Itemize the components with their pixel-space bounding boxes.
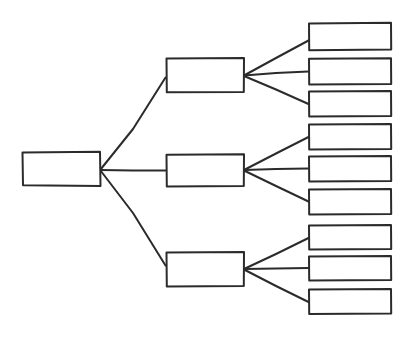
- node-leaf-9[interactable]: [309, 289, 391, 314]
- connector-branch-3-to-leaf-9: [244, 270, 309, 303]
- node-leaf-7[interactable]: [309, 225, 391, 250]
- node-leaf-1[interactable]: [309, 23, 391, 50]
- connector-root-to-branch-2: [101, 170, 166, 171]
- connector-branch-1-to-leaf-2: [244, 72, 309, 76]
- tree-diagram-svg: [0, 0, 406, 340]
- node-root[interactable]: [23, 152, 101, 186]
- node-branch-2[interactable]: [167, 154, 245, 186]
- node-branch-3-outline: [167, 252, 245, 286]
- node-leaf-1-outline: [309, 23, 391, 50]
- node-leaf-5-outline: [309, 156, 391, 182]
- connector-group-root: [101, 78, 166, 266]
- node-leaf-6[interactable]: [309, 189, 391, 215]
- node-root-outline: [23, 152, 101, 186]
- node-leaf-3-outline: [309, 91, 391, 116]
- node-leaf-8[interactable]: [309, 256, 391, 281]
- connector-group-branch-3: [244, 238, 309, 302]
- connector-group-branch-1: [244, 41, 309, 105]
- connector-branch-2-to-leaf-5: [244, 169, 309, 171]
- connector-branch-3-to-leaf-7: [244, 238, 309, 269]
- node-branch-1-outline: [167, 58, 245, 92]
- connector-branch-1-to-leaf-3: [244, 76, 309, 104]
- connector-root-to-branch-3: [101, 171, 166, 266]
- connector-branch-3-to-leaf-8: [244, 268, 309, 269]
- node-leaf-4-outline: [309, 124, 391, 150]
- node-leaf-6-outline: [309, 189, 391, 215]
- node-branch-2-outline: [167, 154, 245, 186]
- node-leaf-7-outline: [309, 225, 391, 250]
- node-leaf-4[interactable]: [309, 124, 391, 150]
- node-leaf-2-outline: [309, 58, 391, 84]
- node-leaf-9-outline: [309, 289, 391, 314]
- connector-root-to-branch-1: [101, 78, 166, 170]
- connector-branch-1-to-leaf-1: [244, 41, 309, 76]
- node-leaf-8-outline: [309, 256, 391, 281]
- connector-branch-2-to-leaf-6: [244, 171, 309, 202]
- connector-group-branch-2: [244, 137, 309, 202]
- node-leaf-5[interactable]: [309, 156, 391, 182]
- connector-branch-2-to-leaf-4: [244, 137, 309, 170]
- node-leaf-2[interactable]: [309, 58, 391, 84]
- tree-diagram-canvas: [0, 0, 406, 340]
- node-branch-3[interactable]: [167, 252, 245, 286]
- node-branch-1[interactable]: [167, 58, 245, 92]
- node-leaf-3[interactable]: [309, 91, 391, 116]
